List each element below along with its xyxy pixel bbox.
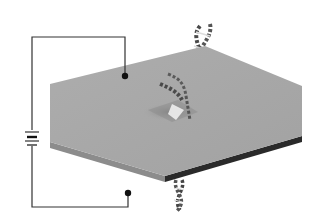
bottom-electrode xyxy=(125,190,131,196)
battery-icon xyxy=(25,132,39,145)
diagram-svg xyxy=(0,0,322,219)
nanopore-diagram xyxy=(0,0,322,219)
dna-lower-strand xyxy=(174,180,184,212)
top-electrode xyxy=(122,73,128,79)
